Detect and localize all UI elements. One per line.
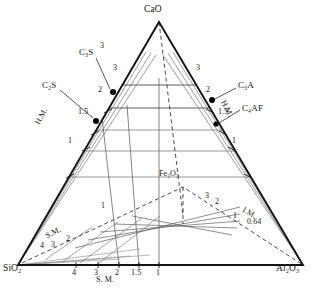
phase-label-c4af: C₄AF <box>242 104 263 113</box>
interior-label-fe2o3: Fe₂O₃ <box>159 170 179 178</box>
tick-sm-diag-4: 4 <box>40 242 44 250</box>
tick-left-outer-2: 2 <box>98 86 102 94</box>
phase-label-c3s: C₃S <box>79 48 93 57</box>
tick-im-diag-3: 3 <box>205 192 209 200</box>
sm-crosshatch <box>45 216 160 264</box>
interior-grid <box>18 22 303 265</box>
tick-bottom-3: 3 <box>94 269 98 277</box>
tick-bottom-4: 4 <box>72 269 76 277</box>
tick-sm-diag-2: 2 <box>66 235 70 243</box>
sm-fan-left-major <box>18 55 124 265</box>
silica-corner-fan <box>18 249 150 265</box>
tick-right-2: 2 <box>206 86 210 94</box>
vertex-label-al2o3: Al₂O₃ <box>276 264 300 274</box>
marker-c3s[interactable] <box>110 89 116 95</box>
tick-bottom-2: 2 <box>115 269 119 277</box>
tick-bottom-1: 1 <box>156 269 160 277</box>
vertex-label-sio2: SiO₂ <box>3 264 22 274</box>
marker-c4af[interactable] <box>213 121 218 126</box>
tick-right-3: 3 <box>196 64 200 72</box>
phase-label-c2s: C₂S <box>42 81 56 90</box>
im-fan-right <box>163 52 303 265</box>
tick-im-diag-064: 0.64 <box>247 218 261 226</box>
tick-im-diag-1: 1 <box>233 212 237 220</box>
triangle-outline <box>18 22 303 265</box>
axis-caption-sm-bottom: S. M. <box>96 276 114 284</box>
tick-bottom-15: 1.5 <box>131 269 141 277</box>
tick-im-diag-2: 2 <box>215 198 219 206</box>
tick-sm-diag-3: 3 <box>51 241 55 249</box>
tick-right-1: 1 <box>232 137 236 145</box>
tick-left-outer-15: 1.5 <box>78 108 88 116</box>
vertex-label-cao: CaO <box>144 5 162 15</box>
marker-c2s[interactable] <box>93 118 99 124</box>
tick-left-outer-3: 3 <box>100 42 104 50</box>
phase-label-c3a: C₃A <box>238 81 254 90</box>
fe2o3-dashed-lines <box>18 22 303 265</box>
tick-left-outer-1: 1 <box>68 137 72 145</box>
ternary-diagram-figure: CaO SiO₂ Al₂O₃ Fe₂O₃ C₃S C₂S C₃A C₄AF H.… <box>0 0 318 289</box>
tick-left-inner-3: 3 <box>113 64 117 72</box>
im-isolines <box>75 207 240 248</box>
diagram-canvas <box>0 0 318 289</box>
tick-right-15: 1.5 <box>218 108 228 116</box>
tick-sm-diag-1: 1 <box>101 202 105 210</box>
marker-c3a[interactable] <box>209 97 215 103</box>
